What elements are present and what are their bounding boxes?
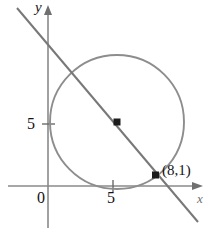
y-axis-label: y (35, 0, 42, 15)
math-graph-figure: 0 5 5 y x (8,1) (0, 0, 207, 228)
y-axis-tick-label-5: 5 (27, 116, 35, 132)
point-8-1-marker (152, 172, 159, 179)
circle-center-point (114, 119, 121, 126)
point-coordinate-label: (8,1) (162, 163, 191, 178)
y-axis-arrowhead (44, 5, 52, 15)
x-axis-tick-label-5: 5 (107, 190, 115, 206)
origin-label: 0 (37, 190, 45, 206)
x-axis-label: x (197, 192, 203, 205)
plot-canvas (0, 0, 207, 228)
x-axis-arrowhead (192, 182, 203, 190)
